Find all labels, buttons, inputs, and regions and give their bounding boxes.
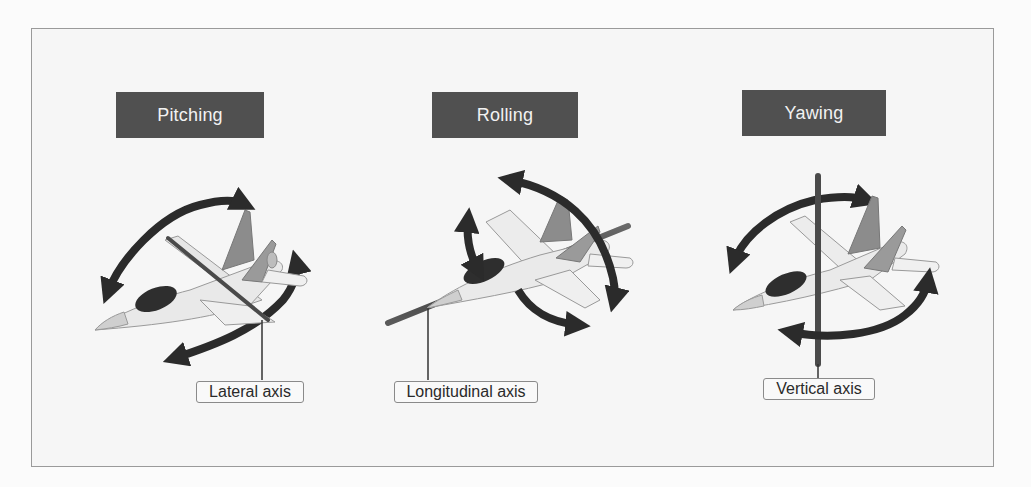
axis-label-longitudinal: Longitudinal axis (394, 381, 538, 403)
yawing-panel (733, 176, 939, 378)
axis-label-vertical: Vertical axis (763, 378, 875, 400)
jet-plane-icon (733, 196, 939, 310)
diagram-art (0, 0, 1031, 487)
rolling-panel (388, 180, 633, 380)
pitching-panel (95, 201, 307, 380)
rotation-arrow-icon (467, 220, 478, 270)
axis-label-lateral: Lateral axis (196, 381, 304, 403)
